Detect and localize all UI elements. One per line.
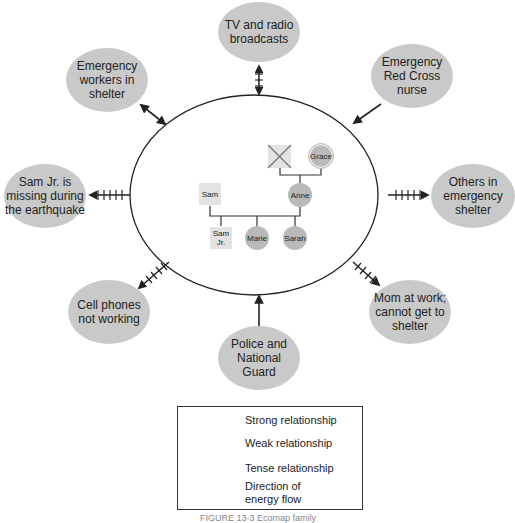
label-sam: Sam [199,189,221,199]
connector-redcross [354,104,381,123]
node-mom-at-work: Mom at work;cannot get toshelter [369,280,451,344]
figure-caption: FIGURE 13-3 Ecomap family [200,513,316,523]
node-police-national-guard: Police andNationalGuard [218,326,300,390]
node-label: Red Cross [382,69,443,83]
node-label: cannot get to [374,305,446,319]
connector-workers [141,105,165,124]
label-samjr-line2: Jr. [217,238,225,247]
node-label: emergency [443,189,502,203]
node-label: workers in [77,73,138,87]
node-cell-phones: Cell phonesnot working [68,280,150,344]
family-circle [130,95,378,295]
node-label: National [231,351,287,365]
node-label: TV and radio [225,18,294,32]
node-red-cross-nurse: EmergencyRed Crossnurse [371,44,453,108]
label-grace: Grace [309,151,333,161]
node-sam-jr-missing: Sam Jr. ismissing duringthe earthquake [4,164,86,228]
node-tv-radio: TV and radiobroadcasts [218,2,300,62]
node-label: Mom at work; [374,291,446,305]
legend-tense-label: Tense relationship [245,462,334,475]
connector-others [388,190,428,200]
label-anne: Anne [288,190,312,200]
label-samjr-line1: Sam [213,229,229,238]
node-emergency-workers: Emergencyworkers inshelter [66,48,148,112]
legend: Strong relationship Weak relationship Te… [177,406,363,510]
node-label: missing during [5,189,85,203]
node-label: Emergency [77,59,138,73]
connector-samjr [90,190,130,200]
legend-strong-label: Strong relationship [245,414,337,427]
label-samjr: Sam Jr. [210,229,232,247]
node-label: Emergency [382,55,443,69]
legend-weak-label: Weak relationship [245,437,332,450]
node-label: nurse [382,83,443,97]
node-label: shelter [443,203,502,217]
node-label: shelter [374,319,446,333]
node-label: Others in [443,175,502,189]
node-label: broadcasts [225,32,294,46]
node-label: Police and [231,337,287,351]
label-sarah: Sarah [283,233,307,243]
node-label: Cell phones [77,298,140,312]
node-label: shelter [77,87,138,101]
connector-tv [255,66,263,94]
node-label: Guard [231,365,287,379]
deceased-grandfather [268,145,291,168]
connector-cell [139,262,169,288]
legend-flow-line1: Direction of [245,480,301,493]
label-marie: Marie [245,233,269,243]
node-label: Sam Jr. is [5,175,85,189]
node-label: not working [77,312,140,326]
node-label: the earthquake [5,203,85,217]
connector-mom [353,262,379,285]
legend-flow-label: Direction of energy flow [245,480,301,506]
legend-flow-line2: energy flow [245,493,301,506]
node-others-in-shelter: Others inemergencyshelter [431,164,515,228]
